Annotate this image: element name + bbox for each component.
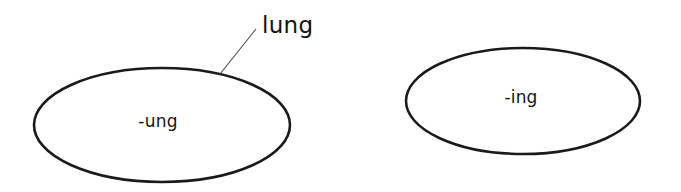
diagram-canvas: -ung lung -ing [0, 0, 681, 192]
node-ung-label: -ung [138, 111, 177, 131]
node-ung[interactable]: -ung [34, 68, 290, 182]
lung-callout-label: lung [262, 12, 313, 38]
diagram-svg: -ung lung -ing [0, 0, 681, 192]
node-ing-label: -ing [504, 87, 537, 107]
lung-leader-line [220, 29, 256, 74]
node-ing[interactable]: -ing [406, 48, 640, 154]
